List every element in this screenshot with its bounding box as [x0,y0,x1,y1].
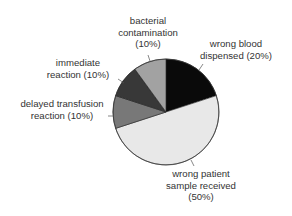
label-immediate-reaction: immediate reaction (10%) [42,57,114,80]
label-line: bacterial [118,15,178,27]
label-line: reaction (10%) [14,110,110,122]
label-line: immediate [42,57,114,69]
label-wrong-patient-sample: wrong patient sample received (50%) [158,168,244,203]
label-line: (10%) [118,38,178,50]
leader-wrong-blood [199,64,203,70]
leader-wrong-patient [191,160,194,166]
label-line: wrong patient [158,168,244,180]
label-line: (50%) [158,191,244,203]
label-line: contamination [118,27,178,39]
pie-slices [113,59,219,165]
label-line: delayed transfusion [14,98,110,110]
label-delayed-transfusion-reaction: delayed transfusion reaction (10%) [14,98,110,121]
label-bacterial-contamination: bacterial contamination (10%) [118,15,178,50]
label-line: reaction (10%) [42,69,114,81]
label-line: wrong blood [195,38,277,50]
label-wrong-blood-dispensed: wrong blood dispensed (20%) [195,38,277,61]
label-line: sample received [158,180,244,192]
leader-bacterial [148,55,150,61]
label-line: dispensed (20%) [195,50,277,62]
